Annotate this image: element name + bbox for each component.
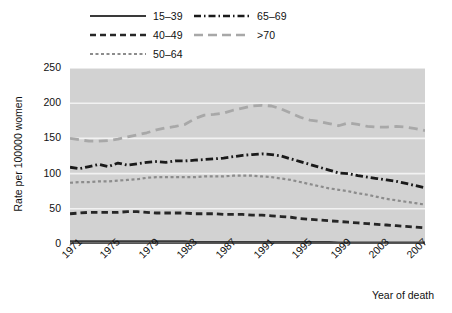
legend-line-dashed-icon	[88, 29, 148, 41]
legend-label-over-70: >70	[257, 29, 275, 41]
series-line->70	[70, 105, 425, 141]
y-tick-label: 100	[43, 168, 61, 179]
series-line-65-69	[70, 154, 425, 188]
legend-item-50-64: 50–64	[88, 46, 183, 61]
legend-label-15-39: 15–39	[153, 10, 183, 22]
series-line-50-64	[70, 176, 425, 205]
y-tick-label: 250	[43, 62, 61, 73]
legend-item-40-49: 40–49	[88, 27, 183, 42]
series-line-40-49	[70, 212, 425, 228]
y-tick-label: 200	[43, 97, 61, 108]
chart-legend: 15–39 40–49 50–64 65	[88, 8, 338, 60]
y-tick-label: 50	[49, 203, 61, 214]
y-axis-tick-labels: 050100150200250	[0, 60, 66, 255]
x-axis-title: Year of death	[372, 289, 434, 301]
chart-figure: 15–39 40–49 50–64 65	[0, 0, 452, 313]
legend-label-50-64: 50–64	[153, 48, 183, 60]
legend-item-15-39: 15–39	[88, 8, 183, 23]
legend-line-dashdot-icon	[192, 10, 252, 22]
legend-item-65-69: 65–69	[192, 8, 287, 23]
legend-label-40-49: 40–49	[153, 29, 183, 41]
gridlines	[70, 68, 425, 209]
plot-canvas	[70, 68, 425, 244]
legend-line-solid-icon	[88, 10, 148, 22]
legend-item-over-70: >70	[192, 27, 275, 42]
y-axis-title: Rate per 100000 women	[12, 74, 24, 234]
legend-line-longdash-icon	[192, 29, 252, 41]
legend-label-65-69: 65–69	[257, 10, 287, 22]
x-axis-tick-labels: 1971197519791983198719911995199920032007	[0, 246, 452, 286]
y-tick-label: 150	[43, 132, 61, 143]
plot-area	[70, 68, 425, 244]
legend-line-dotted-icon	[88, 48, 148, 60]
